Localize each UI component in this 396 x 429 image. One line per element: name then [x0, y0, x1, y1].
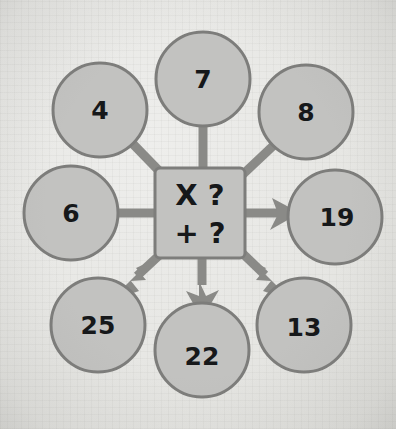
operation-box[interactable]: X ? + ?: [155, 168, 245, 258]
node-input-top[interactable]: 7: [156, 32, 250, 126]
operation-line-add: + ?: [174, 216, 225, 250]
node-label-4: 4: [91, 96, 108, 125]
node-label-22: 22: [185, 342, 220, 371]
node-output-bottom[interactable]: 22: [155, 303, 249, 397]
node-label-8: 8: [297, 98, 314, 127]
node-label-19: 19: [320, 203, 355, 232]
node-output-right[interactable]: 19: [288, 170, 382, 264]
node-input-top-left[interactable]: 4: [53, 63, 147, 157]
node-label-25: 25: [81, 311, 116, 340]
puzzle-svg: 4 7 8 6 19 25: [0, 0, 396, 429]
node-input-left[interactable]: 6: [24, 166, 118, 260]
node-label-7: 7: [194, 65, 211, 94]
operation-line-multiply: X ?: [175, 178, 224, 212]
node-output-bottom-left[interactable]: 25: [51, 278, 145, 372]
node-label-13: 13: [287, 313, 322, 342]
node-output-bottom-right[interactable]: 13: [257, 278, 351, 372]
node-input-top-right[interactable]: 8: [259, 65, 353, 159]
puzzle-diagram: 4 7 8 6 19 25: [0, 0, 396, 429]
node-label-6: 6: [62, 199, 79, 228]
